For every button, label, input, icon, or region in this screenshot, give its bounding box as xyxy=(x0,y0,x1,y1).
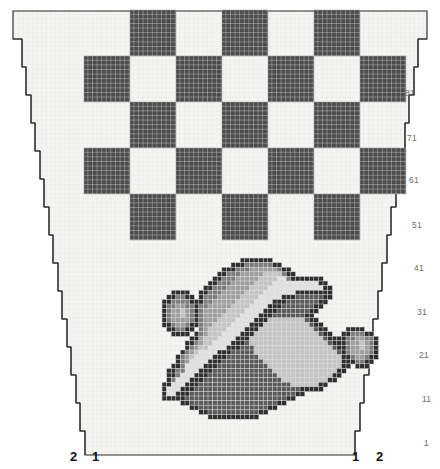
pattern-chart-canvas: 81716151413121111 2112 xyxy=(0,0,440,469)
motif-stitch xyxy=(217,391,222,396)
motif-stitch xyxy=(323,368,328,373)
motif-stitch xyxy=(231,304,236,309)
motif-stitch xyxy=(245,391,250,396)
motif-stitch xyxy=(171,382,176,387)
motif-stitch xyxy=(305,336,310,341)
motif-stitch xyxy=(231,401,236,406)
motif-stitch xyxy=(217,401,222,406)
motif-stitch xyxy=(217,359,222,364)
motif-stitch xyxy=(167,391,172,396)
motif-stitch xyxy=(300,355,305,360)
motif-stitch xyxy=(268,309,273,314)
motif-stitch xyxy=(208,378,213,383)
motif-stitch xyxy=(282,391,287,396)
motif-stitch xyxy=(249,304,254,309)
motif-stitch xyxy=(263,295,268,300)
motif-stitch xyxy=(346,364,351,369)
motif-stitch xyxy=(254,396,259,401)
motif-stitch xyxy=(199,313,204,318)
motif-stitch xyxy=(305,341,310,346)
motif-stitch xyxy=(295,327,300,332)
motif-stitch xyxy=(282,332,287,337)
motif-stitch xyxy=(259,267,264,272)
motif-stitch xyxy=(240,341,245,346)
motif-stitch xyxy=(286,286,291,291)
motif-stitch xyxy=(194,341,199,346)
motif-stitch xyxy=(226,396,231,401)
motif-stitch xyxy=(240,336,245,341)
checker-square-dark xyxy=(222,194,268,240)
motif-stitch xyxy=(171,295,176,300)
motif-stitch xyxy=(268,364,273,369)
motif-stitch xyxy=(194,364,199,369)
motif-stitch xyxy=(199,304,204,309)
motif-stitch xyxy=(323,373,328,378)
motif-stitch xyxy=(318,295,323,300)
motif-stitch xyxy=(185,396,190,401)
motif-stitch xyxy=(295,373,300,378)
motif-stitch xyxy=(300,299,305,304)
motif-stitch xyxy=(346,355,351,360)
motif-stitch xyxy=(254,391,259,396)
motif-stitch xyxy=(208,373,213,378)
motif-stitch xyxy=(213,387,218,392)
motif-stitch xyxy=(309,350,314,355)
motif-stitch xyxy=(272,378,277,383)
motif-stitch xyxy=(300,387,305,392)
motif-stitch xyxy=(185,318,190,323)
motif-stitch xyxy=(203,299,208,304)
motif-stitch xyxy=(309,345,314,350)
motif-stitch xyxy=(171,364,176,369)
motif-stitch xyxy=(226,318,231,323)
motif-stitch xyxy=(236,276,241,281)
motif-stitch xyxy=(337,350,342,355)
motif-stitch xyxy=(374,350,379,355)
motif-stitch xyxy=(171,368,176,373)
motif-stitch xyxy=(226,286,231,291)
motif-stitch xyxy=(309,387,314,392)
motif-stitch xyxy=(171,304,176,309)
motif-stitch xyxy=(263,345,268,350)
motif-stitch xyxy=(318,345,323,350)
motif-stitch xyxy=(213,286,218,291)
motif-stitch xyxy=(254,281,259,286)
motif-stitch xyxy=(282,304,287,309)
motif-stitch xyxy=(259,341,264,346)
motif-stitch xyxy=(213,341,218,346)
motif-stitch xyxy=(305,318,310,323)
motif-stitch xyxy=(314,336,319,341)
motif-stitch xyxy=(245,299,250,304)
motif-stitch xyxy=(346,327,351,332)
motif-stitch xyxy=(309,336,314,341)
motif-stitch xyxy=(268,304,273,309)
motif-stitch xyxy=(263,263,268,268)
motif-stitch xyxy=(190,345,195,350)
motif-stitch xyxy=(263,258,268,263)
motif-stitch xyxy=(309,322,314,327)
motif-stitch xyxy=(263,373,268,378)
motif-stitch xyxy=(300,281,305,286)
motif-stitch xyxy=(231,263,236,268)
motif-stitch xyxy=(351,359,356,364)
motif-stitch xyxy=(167,396,172,401)
motif-stitch xyxy=(295,332,300,337)
motif-stitch xyxy=(263,341,268,346)
motif-stitch xyxy=(213,304,218,309)
motif-stitch xyxy=(291,378,296,383)
motif-stitch xyxy=(277,368,282,373)
motif-stitch xyxy=(203,350,208,355)
motif-stitch xyxy=(199,295,204,300)
motif-stitch xyxy=(259,286,264,291)
motif-stitch xyxy=(208,295,213,300)
motif-stitch xyxy=(217,322,222,327)
motif-stitch xyxy=(162,318,167,323)
motif-stitch xyxy=(208,405,213,410)
motif-stitch xyxy=(217,332,222,337)
motif-stitch xyxy=(360,350,365,355)
motif-stitch xyxy=(291,295,296,300)
motif-stitch xyxy=(254,286,259,291)
motif-stitch xyxy=(254,290,259,295)
motif-stitch xyxy=(240,359,245,364)
motif-stitch xyxy=(236,350,241,355)
motif-stitch xyxy=(190,327,195,332)
